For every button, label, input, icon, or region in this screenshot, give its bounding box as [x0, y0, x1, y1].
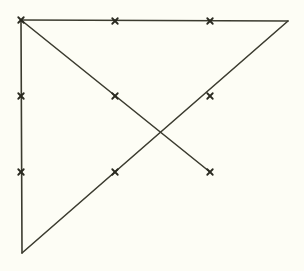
top-edge — [21, 20, 288, 21]
line-figure-svg — [0, 0, 304, 271]
left-edge — [21, 20, 22, 253]
figure-canvas — [0, 0, 304, 271]
